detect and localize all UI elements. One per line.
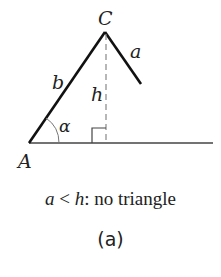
angle-arc	[46, 118, 59, 143]
angle-label: α	[59, 116, 71, 136]
height-label: h	[91, 83, 103, 105]
caption: a < h: no triangle	[0, 188, 221, 210]
subfigure-label: (a)	[0, 228, 221, 250]
right-angle-marker	[92, 128, 106, 143]
vertex-c-label: C	[98, 7, 113, 29]
caption-relation: <	[54, 188, 74, 209]
caption-text: : no triangle	[84, 188, 176, 209]
vertex-a-label: A	[16, 150, 32, 172]
caption-var-h: h	[75, 188, 85, 209]
side-b-label: b	[52, 71, 64, 93]
side-a-label: a	[130, 40, 141, 62]
